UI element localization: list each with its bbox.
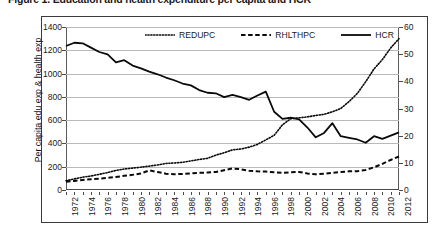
x-axis-tick-label: 1996: [270, 197, 280, 216]
y2-axis-tick-label: 0: [404, 186, 436, 195]
x-axis-tick-label: 1990: [220, 197, 230, 216]
plot-area: [66, 27, 399, 190]
x-axis-tick-mark: [257, 192, 258, 195]
x-axis-tick-mark: [224, 192, 225, 195]
x-axis-tick-mark: [208, 192, 209, 195]
x-axis-tick-label: 1994: [253, 197, 263, 216]
series-line-rhlthpc: [66, 156, 399, 181]
y-axis-tick-label: 1200: [28, 46, 62, 55]
y-axis-tick-mark: [62, 120, 66, 121]
legend-swatch-dashed-icon: [241, 31, 271, 39]
x-axis-tick-mark: [108, 192, 109, 195]
legend-swatch-dotted-icon: [145, 31, 175, 39]
x-axis-tick-mark: [366, 192, 367, 195]
x-axis-tick-mark: [199, 192, 200, 195]
x-axis-tick-mark: [74, 192, 75, 195]
legend-entry-rhlthpc[interactable]: RHLTHPC: [241, 30, 315, 40]
y-axis-tick-label: 200: [28, 162, 62, 171]
y-axis-tick-label: 400: [28, 139, 62, 148]
y2-axis-tick-mark: [399, 136, 403, 137]
x-axis-tick-mark: [266, 192, 267, 195]
y2-axis-tick-label: 30: [404, 104, 436, 113]
x-axis-tick-mark: [166, 192, 167, 195]
x-axis-tick-label: 2002: [320, 197, 330, 216]
x-axis-tick-mark: [399, 192, 400, 195]
series-line-hcr: [66, 43, 399, 143]
x-axis-tick-label: 2010: [386, 197, 396, 216]
x-axis-tick-mark: [341, 192, 342, 195]
x-axis-tick-mark: [216, 192, 217, 195]
x-axis-tick-mark: [233, 192, 234, 195]
x-axis-tick-mark: [324, 192, 325, 195]
y2-axis-tick-mark: [399, 54, 403, 55]
x-axis-tick-label: 2012: [403, 197, 413, 216]
legend-entry-redupc[interactable]: REDUPC: [145, 30, 215, 40]
x-axis-tick-mark: [91, 192, 92, 195]
x-axis-tick-mark: [374, 192, 375, 195]
y-axis-right-tick-labels: 0102030405060: [404, 27, 436, 190]
series-line-redupc: [66, 39, 399, 181]
x-axis-tick-mark: [274, 192, 275, 195]
x-axis-tick-label: 2004: [336, 197, 346, 216]
y-axis-tick-mark: [62, 74, 66, 75]
y2-axis-tick-mark: [399, 190, 403, 191]
y-axis-tick-label: 600: [28, 116, 62, 125]
x-axis-tick-mark: [249, 192, 250, 195]
x-axis-tick-label: 1982: [153, 197, 163, 216]
x-axis-tick-label: 1988: [203, 197, 213, 216]
x-axis-tick-mark: [83, 192, 84, 195]
x-axis-tick-label: 1992: [237, 197, 247, 216]
x-axis-tick-mark: [241, 192, 242, 195]
y-axis-tick-mark: [62, 97, 66, 98]
x-axis-tick-label: 1978: [120, 197, 130, 216]
y-axis-tick-label: 1000: [28, 69, 62, 78]
chart-legend: REDUPCRHLTHPCHCR: [145, 30, 394, 40]
x-axis-tick-mark: [158, 192, 159, 195]
x-axis-tick-mark: [183, 192, 184, 195]
x-axis-tick-label: 1972: [70, 197, 80, 216]
y-axis-tick-label: 0: [28, 186, 62, 195]
legend-entry-hcr[interactable]: HCR: [341, 30, 394, 40]
x-axis-tick-label: 2000: [303, 197, 313, 216]
y2-axis-tick-label: 10: [404, 159, 436, 168]
x-axis-tick-labels: 1972197419761978198019821984198619881990…: [66, 192, 399, 232]
x-axis-tick-mark: [191, 192, 192, 195]
y-axis-tick-mark: [62, 50, 66, 51]
legend-label: RHLTHPC: [275, 30, 315, 40]
x-axis-tick-label: 1974: [87, 197, 97, 216]
legend-label: HCR: [375, 30, 394, 40]
y-axis-tick-label: 800: [28, 93, 62, 102]
x-axis-tick-label: 2006: [353, 197, 363, 216]
x-axis-tick-mark: [282, 192, 283, 195]
y2-axis-tick-mark: [399, 27, 403, 28]
y-axis-tick-mark: [62, 190, 66, 191]
y2-axis-tick-mark: [399, 81, 403, 82]
x-axis-tick-mark: [291, 192, 292, 195]
x-axis-tick-mark: [316, 192, 317, 195]
x-axis-tick-mark: [149, 192, 150, 195]
y-axis-tick-label: 1400: [28, 23, 62, 32]
x-axis-tick-mark: [382, 192, 383, 195]
x-axis-tick-mark: [99, 192, 100, 195]
figure-container: Figure 1. Education and health expenditu…: [0, 0, 438, 234]
x-axis-tick-mark: [307, 192, 308, 195]
y-axis-tick-mark: [62, 27, 66, 28]
x-axis-tick-mark: [357, 192, 358, 195]
x-axis-tick-mark: [391, 192, 392, 195]
y2-axis-tick-mark: [399, 109, 403, 110]
x-axis-tick-mark: [349, 192, 350, 195]
x-axis-tick-label: 1980: [137, 197, 147, 216]
x-axis-tick-mark: [299, 192, 300, 195]
y2-axis-tick-label: 20: [404, 131, 436, 140]
x-axis-tick-label: 1986: [187, 197, 197, 216]
y-axis-tick-mark: [62, 167, 66, 168]
y2-axis-tick-label: 50: [404, 50, 436, 59]
legend-swatch-solid-icon: [341, 31, 371, 39]
y2-axis-tick-label: 60: [404, 23, 436, 32]
x-axis-tick-label: 1976: [103, 197, 113, 216]
x-axis-tick-mark: [141, 192, 142, 195]
x-axis-tick-label: 1998: [286, 197, 296, 216]
x-axis-tick-mark: [133, 192, 134, 195]
x-axis-tick-mark: [332, 192, 333, 195]
x-axis-tick-mark: [124, 192, 125, 195]
